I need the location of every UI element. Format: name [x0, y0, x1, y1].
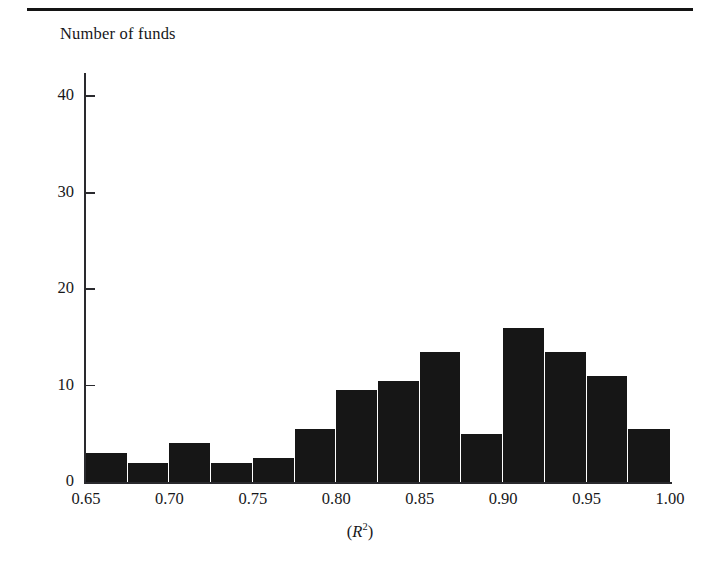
- y-axis-tick-label: 30: [30, 182, 74, 202]
- y-axis-title: Number of funds: [60, 24, 176, 44]
- top-rule-divider: [27, 8, 693, 11]
- x-axis-line: [84, 482, 672, 484]
- x-axis-tick-label: 0.65: [72, 489, 101, 509]
- histogram-bar: [378, 381, 420, 482]
- histogram-bar: [86, 453, 128, 482]
- histogram-bar: [503, 328, 545, 482]
- x-axis-tick-label: 0.75: [238, 489, 267, 509]
- histogram-bar: [253, 458, 295, 482]
- y-axis-tick-label: 0: [30, 471, 74, 491]
- x-axis-tick-label: 0.85: [405, 489, 434, 509]
- x-axis-tick-label: 0.95: [572, 489, 601, 509]
- x-axis-tick-label: 0.70: [155, 489, 184, 509]
- x-axis-title-suffix: ): [368, 522, 374, 541]
- histogram-bar: [420, 352, 462, 482]
- x-axis-title: (R2): [0, 521, 720, 542]
- histogram-bar: [587, 376, 629, 482]
- y-axis-tick-label: 10: [30, 375, 74, 395]
- histogram-bar: [336, 390, 378, 482]
- x-axis-tick-label: 0.90: [489, 489, 518, 509]
- histogram-bar: [545, 352, 587, 482]
- x-axis-tick-label: 0.80: [322, 489, 351, 509]
- x-axis-tick-label: 1.00: [656, 489, 685, 509]
- histogram-bar: [461, 434, 503, 482]
- histogram-bar: [628, 429, 670, 482]
- histogram-bars: [86, 77, 670, 482]
- y-axis-tick-label: 40: [30, 85, 74, 105]
- histogram-bar: [295, 429, 337, 482]
- histogram-bar: [169, 443, 211, 482]
- histogram-bar: [211, 463, 253, 482]
- histogram-figure: Number of funds 010203040 0.650.700.750.…: [0, 0, 720, 573]
- y-axis-tick-label: 20: [30, 278, 74, 298]
- histogram-bar: [128, 463, 170, 482]
- x-axis-title-symbol: R: [352, 522, 362, 541]
